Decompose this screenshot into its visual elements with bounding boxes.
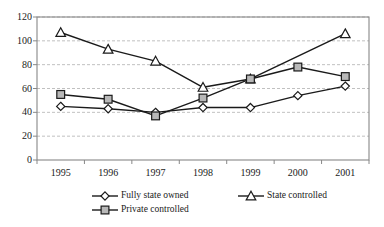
legend-marker-diamond-icon (92, 190, 118, 202)
legend-marker-square-icon (92, 204, 118, 216)
y-axis-tick-label: 60 (2, 83, 32, 94)
x-axis-tick-label: 1998 (181, 167, 225, 178)
legend-item-triangle[interactable]: State controlled (238, 190, 327, 202)
x-axis-tick-label: 2000 (276, 167, 320, 178)
x-axis-tick-label: 2001 (323, 167, 367, 178)
y-axis-tick-label: 40 (2, 106, 32, 117)
legend-label: Fully state owned (121, 191, 189, 201)
legend-item-square[interactable]: Private controlled (92, 204, 189, 216)
x-axis-tick-label: 1997 (134, 167, 178, 178)
legend-label: Private controlled (121, 205, 189, 215)
x-axis-tick-label: 1996 (86, 167, 130, 178)
y-axis-tick-label: 80 (2, 59, 32, 70)
y-axis-tick-label: 20 (2, 130, 32, 141)
legend-item-diamond[interactable]: Fully state owned (92, 190, 189, 202)
legend-marker-triangle-icon (238, 190, 264, 202)
x-axis-tick-label: 1999 (228, 167, 272, 178)
x-axis-tick-label: 1995 (39, 167, 83, 178)
y-axis-tick-label: 120 (2, 11, 32, 22)
y-axis-tick-label: 0 (2, 154, 32, 165)
y-axis-tick-label: 100 (2, 35, 32, 46)
legend-label: State controlled (267, 191, 327, 201)
chart-container: 120100806040200 199519961997199819992000… (0, 0, 384, 227)
